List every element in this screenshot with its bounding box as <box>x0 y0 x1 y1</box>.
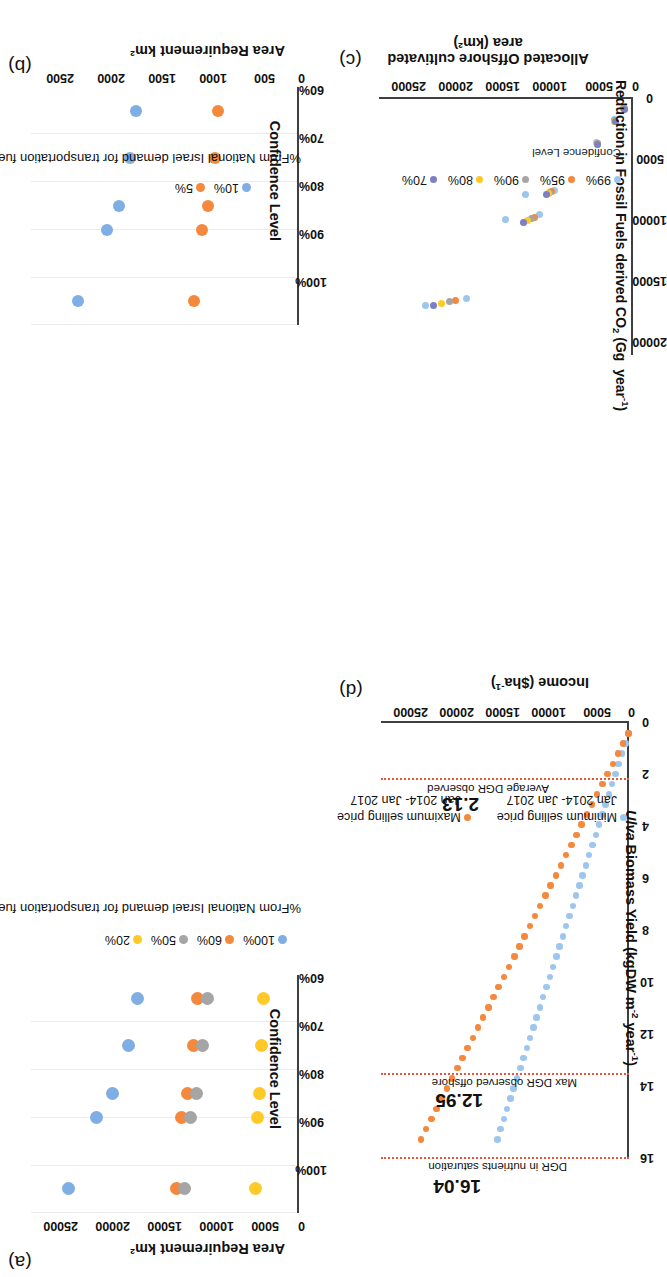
panel-d-xtick-0: 0 <box>642 715 649 729</box>
panel-c-xtick-4: 20000 <box>632 335 667 349</box>
data-point-a-20%-2 <box>253 1088 266 1101</box>
panel-d-xtick-8: 16 <box>640 1151 654 1165</box>
panel-d-label: (d) <box>339 679 363 701</box>
panel-c-legend-label-3: 80% <box>448 173 473 187</box>
panel-c-xtick-1: 5000 <box>636 152 664 166</box>
panel-b-label: (b) <box>8 55 32 77</box>
data-point-d-Maximum-selling-price-21 <box>516 943 523 950</box>
panel-b-ytick-4: 2000 <box>97 71 125 85</box>
panel-d-legend-item-0[interactable]: Minimum selling price Jan 2014- Jan 2017 <box>497 792 627 825</box>
annotation-nutrient-saturation-value: 16.04 <box>433 1175 481 1197</box>
data-point-d-Maximum-selling-price-15 <box>547 882 554 889</box>
data-point-d-Minimum-selling-price-27 <box>537 1004 544 1011</box>
data-point-d-Maximum-selling-price-11 <box>568 842 575 849</box>
data-point-d-Minimum-selling-price-16 <box>573 893 580 900</box>
panel-a-ytick-1: 5000 <box>251 1219 279 1233</box>
data-point-d-Maximum-selling-price-4 <box>604 771 611 778</box>
data-point-b-5%-4 <box>188 295 200 307</box>
panel-d-legend-sublabel-1: Jan 2014- Jan 2017 <box>337 792 461 809</box>
panel-b-legend-item-1[interactable]: 5% <box>175 181 205 195</box>
panel-c-legend: 99% 95% 90% 80% 70% <box>402 173 621 187</box>
data-point-a-50%-2 <box>190 1088 203 1101</box>
panel-d-xlabel: Ulva Biomass Yield (kgDW m-2 year-1) <box>623 803 641 1073</box>
data-point-d-Minimum-selling-price-20 <box>560 933 567 940</box>
panel-a: (a) Area Requirement km² Area Requiremen… <box>0 637 327 1277</box>
data-point-d-Maximum-selling-price-38 <box>428 1116 435 1123</box>
data-point-c-70%-3 <box>543 191 550 198</box>
data-point-b-5%-2 <box>202 200 214 212</box>
data-point-c-70%-5 <box>430 302 437 309</box>
panel-d-ytick-1: 5000 <box>583 705 611 719</box>
panel-a-ylabel-h: Area Requirement km² <box>130 1241 285 1257</box>
data-point-b-10%-4 <box>72 295 84 307</box>
panel-d-xtick-1: 2 <box>642 767 649 781</box>
panel-b-dots <box>31 87 299 325</box>
data-point-d-Minimum-selling-price-21 <box>556 943 563 950</box>
panel-c-ytick-1: 5000 <box>585 79 613 93</box>
panel-a-legend-label-2: 50% <box>151 933 176 947</box>
data-point-d-Maximum-selling-price-28 <box>480 1014 487 1021</box>
data-point-a-20%-1 <box>255 1040 268 1053</box>
data-point-a-50%-0 <box>201 993 214 1006</box>
panel-b-legend-title: %From National Israel demand for transpo… <box>0 150 301 165</box>
panel-a-ytick-4: 20000 <box>95 1219 130 1233</box>
data-point-d-Minimum-selling-price-13 <box>583 862 590 869</box>
panel-c-legend-item-0[interactable]: 99% <box>586 173 621 187</box>
data-point-a-100%-4 <box>62 1183 75 1196</box>
data-point-d-Maximum-selling-price-0 <box>625 730 632 737</box>
panel-b-xtick-1: 70% <box>299 131 324 145</box>
panel-c-legend-item-2[interactable]: 90% <box>494 173 529 187</box>
panel-c-xlabel: Reduction in Fossil Fuels derived CO2 (G… <box>610 80 630 350</box>
panel-c-plot <box>379 97 633 355</box>
panel-d-xtick-6: 12 <box>640 1027 654 1041</box>
data-point-c-99%-4 <box>522 191 529 198</box>
panel-a-plot <box>31 975 299 1213</box>
panel-c-legend-item-4[interactable]: 70% <box>402 173 437 187</box>
panel-d-legend-item-1[interactable]: Maximum selling price Jan 2014- Jan 2017 <box>337 792 471 825</box>
data-point-d-Maximum-selling-price-24 <box>501 974 508 981</box>
panel-b-legend-item-0[interactable]: 10% <box>214 181 251 195</box>
data-point-d-Maximum-selling-price-20 <box>521 933 528 940</box>
panel-c-ylabel-text: Allocated Offshore cultivated area (km²) <box>387 35 588 67</box>
data-point-d-Minimum-selling-price-26 <box>540 994 547 1001</box>
data-point-a-50%-1 <box>196 1040 209 1053</box>
legend-swatch-20 <box>133 936 142 945</box>
panel-c-ytick-4: 20000 <box>438 79 473 93</box>
data-point-d-Maximum-selling-price-26 <box>490 994 497 1001</box>
panel-d-xtick-4: 8 <box>642 923 649 937</box>
data-point-d-Maximum-selling-price-27 <box>485 1004 492 1011</box>
panel-c-legend-label-2: 90% <box>494 173 519 187</box>
data-point-d-Minimum-selling-price-3 <box>615 761 622 768</box>
panel-c-ytick-0: 0 <box>632 79 639 93</box>
data-point-d-Maximum-selling-price-30 <box>470 1035 477 1042</box>
data-point-d-Maximum-selling-price-18 <box>532 913 539 920</box>
panel-c-ytick-5: 25000 <box>391 79 426 93</box>
panel-c-legend-item-1[interactable]: 95% <box>540 173 575 187</box>
data-point-c-70%-4 <box>520 219 527 226</box>
panel-d-ytick-2: 10000 <box>531 705 566 719</box>
legend-swatch-99 <box>614 177 621 184</box>
panel-d-legend-label-0: Minimum selling price <box>497 809 617 826</box>
legend-swatch-60 <box>225 936 234 945</box>
panel-a-legend-item-2[interactable]: 50% <box>151 933 188 947</box>
panel-a-ytick-2: 10000 <box>199 1219 234 1233</box>
data-point-d-Minimum-selling-price-4 <box>612 771 619 778</box>
data-point-d-Minimum-selling-price-22 <box>553 953 560 960</box>
panel-b-ytick-3: 1500 <box>148 71 176 85</box>
panel-d-xtick-3: 6 <box>642 871 649 885</box>
panel-a-legend-item-1[interactable]: 60% <box>197 933 234 947</box>
panel-b-xtick-4: 100% <box>295 275 327 289</box>
data-point-d-Maximum-selling-price-32 <box>459 1055 466 1062</box>
panel-a-ytick-5: 25000 <box>43 1219 78 1233</box>
panel-c-legend-item-3[interactable]: 80% <box>448 173 483 187</box>
data-point-a-100%-3 <box>90 1112 103 1125</box>
panel-a-xtick-4: 100% <box>295 1163 327 1177</box>
panel-d-xtick-7: 14 <box>640 1079 654 1093</box>
panel-c: (c) Allocated Offshore cultivated area (… <box>333 0 667 637</box>
figure-canvas: (a) Area Requirement km² Area Requiremen… <box>0 0 667 1277</box>
data-point-d-Minimum-selling-price-11 <box>589 842 596 849</box>
panel-a-legend-item-0[interactable]: 100% <box>243 933 287 947</box>
panel-a-legend-item-3[interactable]: 20% <box>105 933 142 947</box>
panel-c-xtick-2: 10000 <box>632 213 667 227</box>
data-point-d-Minimum-selling-price-23 <box>550 964 557 971</box>
